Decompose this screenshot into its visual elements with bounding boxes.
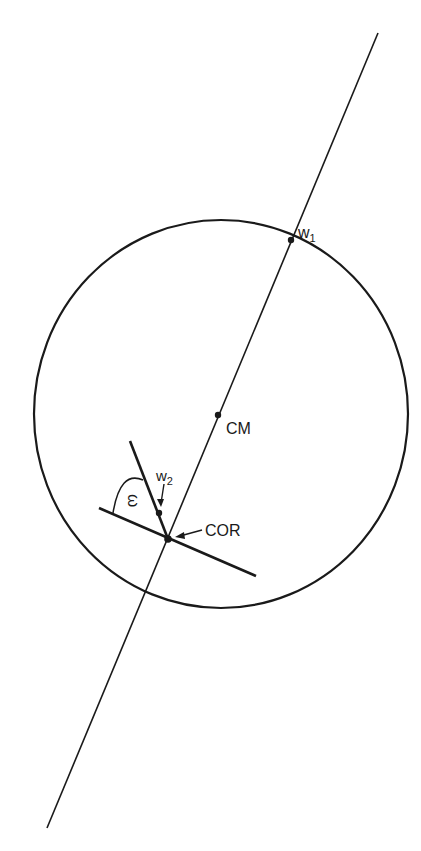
cor-arrow-head	[175, 532, 185, 539]
diagram-canvas: w1 CM w2 COR ω	[0, 0, 421, 851]
cm-point	[215, 412, 221, 418]
cor-label: COR	[205, 522, 241, 539]
long-axis-line	[47, 33, 378, 828]
w1-point	[288, 237, 294, 243]
cm-label: CM	[226, 420, 251, 437]
w2-arrow-head	[157, 499, 164, 507]
w2-point	[156, 510, 162, 516]
omega-label: ω	[124, 494, 143, 507]
support-line	[99, 508, 256, 576]
cor-point	[164, 535, 172, 543]
